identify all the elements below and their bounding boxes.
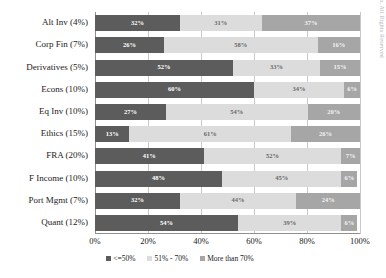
x-tick-label: 20%	[140, 236, 156, 246]
copyright-watermark: Copyright © 2013 Finco. All Rights Reser…	[379, 0, 385, 58]
bar-segment: 26%	[95, 37, 164, 53]
category-label: Econs (10%)	[41, 85, 88, 94]
bar-segment: 34%	[254, 82, 344, 98]
bar-segment: 15%	[320, 60, 360, 76]
legend-swatch-icon	[147, 256, 152, 261]
bar-segment-value-label: 20%	[327, 109, 340, 116]
bar-segment: 44%	[180, 193, 297, 209]
bar-segment-value-label: 13%	[106, 131, 119, 138]
category-axis-labels: Alt Inv (4%)Corp Fin (7%)Derivatives (5%…	[0, 12, 92, 234]
bar-segment-value-label: 52%	[157, 64, 170, 71]
bar-segment: 54%	[95, 215, 238, 231]
x-tick-label: 80%	[299, 236, 315, 246]
category-label: FRA (20%)	[46, 151, 88, 160]
legend-item[interactable]: More than 70%	[200, 254, 254, 263]
x-axis-tick-labels: 0%20%40%60%80%100%	[95, 236, 360, 250]
bar-segment-value-label: 6%	[345, 220, 355, 227]
bar-segment: 54%	[166, 104, 308, 120]
x-tick-label: 100%	[350, 236, 370, 246]
bar-segment: 6%	[341, 171, 357, 187]
plot-area: 32%31%37%26%58%16%52%33%15%60%34%6%27%54…	[95, 12, 360, 234]
bar-segment: 7%	[341, 148, 360, 164]
bar-row: 32%44%24%	[95, 193, 360, 209]
bar-segment: 32%	[95, 193, 180, 209]
bar-segment-value-label: 6%	[345, 175, 355, 182]
category-label: Eq Inv (10%)	[39, 107, 88, 116]
bar-segment: 37%	[262, 15, 360, 31]
bar-segment-value-label: 39%	[283, 220, 296, 227]
bar-segment-value-label: 27%	[124, 109, 137, 116]
bar-segment: 52%	[95, 60, 233, 76]
bar-segment-value-label: 32%	[131, 20, 144, 27]
bar-segment: 48%	[95, 171, 222, 187]
legend-item[interactable]: <=50%	[106, 254, 135, 263]
bar-row: 48%45%6%	[95, 171, 360, 187]
category-label: Derivatives (5%)	[26, 63, 88, 72]
bar-segment: 33%	[233, 60, 320, 76]
bar-segment: 26%	[291, 126, 360, 142]
bar-segment-value-label: 26%	[123, 42, 136, 49]
bar-segment-value-label: 52%	[266, 153, 279, 160]
bar-segment: 39%	[238, 215, 341, 231]
bar-segment: 52%	[204, 148, 342, 164]
bar-segment: 24%	[296, 193, 360, 209]
bar-segment-value-label: 54%	[230, 109, 243, 116]
bar-segment: 31%	[180, 15, 262, 31]
bar-segment-value-label: 33%	[270, 64, 283, 71]
bar-segment-value-label: 54%	[160, 220, 173, 227]
bar-segment-value-label: 7%	[346, 153, 356, 160]
stacked-bar-chart: Alt Inv (4%)Corp Fin (7%)Derivatives (5%…	[0, 0, 386, 278]
bar-segment: 16%	[318, 37, 360, 53]
legend-label: More than 70%	[207, 254, 254, 263]
bar-row: 26%58%16%	[95, 37, 360, 53]
bar-segment: 32%	[95, 15, 180, 31]
bar-row: 41%52%7%	[95, 148, 360, 164]
bar-segment: 13%	[95, 126, 129, 142]
bar-segment-value-label: 32%	[131, 197, 144, 204]
bar-row: 54%39%6%	[95, 215, 360, 231]
category-label: Ethics (15%)	[41, 129, 88, 138]
bar-segment-value-label: 37%	[304, 20, 317, 27]
bar-segment-value-label: 34%	[293, 86, 306, 93]
legend-label: <=50%	[113, 254, 135, 263]
category-label: Quant (12%)	[41, 218, 88, 227]
x-tick-label: 0%	[89, 236, 100, 246]
bar-rows: 32%31%37%26%58%16%52%33%15%60%34%6%27%54…	[95, 12, 360, 234]
bar-segment: 45%	[222, 171, 341, 187]
gridline	[360, 12, 361, 234]
bar-segment-value-label: 45%	[275, 175, 288, 182]
bar-row: 60%34%6%	[95, 82, 360, 98]
bar-row: 13%61%26%	[95, 126, 360, 142]
bar-segment-value-label: 31%	[214, 20, 227, 27]
bar-segment-value-label: 24%	[322, 197, 335, 204]
bar-segment: 61%	[129, 126, 291, 142]
legend-swatch-icon	[106, 256, 111, 261]
bar-row: 27%54%20%	[95, 104, 360, 120]
bar-segment-value-label: 61%	[204, 131, 217, 138]
bar-segment: 58%	[164, 37, 318, 53]
bar-segment: 6%	[341, 215, 357, 231]
x-tick-label: 40%	[193, 236, 209, 246]
legend-item[interactable]: 51% - 70%	[147, 254, 188, 263]
category-label: Alt Inv (4%)	[42, 18, 88, 27]
bar-segment-value-label: 15%	[334, 64, 347, 71]
bar-segment-value-label: 16%	[332, 42, 345, 49]
category-label: Port Mgmt (7%)	[29, 196, 89, 205]
category-label: F Income (10%)	[29, 174, 88, 183]
bar-segment: 60%	[95, 82, 254, 98]
bar-segment-value-label: 60%	[168, 86, 181, 93]
legend-label: 51% - 70%	[154, 254, 188, 263]
x-tick-label: 60%	[246, 236, 262, 246]
bar-segment-value-label: 48%	[152, 175, 165, 182]
bar-row: 52%33%15%	[95, 60, 360, 76]
legend-swatch-icon	[200, 256, 205, 261]
bar-segment: 6%	[344, 82, 360, 98]
bar-segment: 20%	[308, 104, 360, 120]
bar-row: 32%31%37%	[95, 15, 360, 31]
bar-segment: 41%	[95, 148, 204, 164]
bar-segment-value-label: 41%	[143, 153, 156, 160]
chart-legend: <=50%51% - 70%More than 70%	[0, 254, 360, 263]
bar-segment-value-label: 26%	[319, 131, 332, 138]
bar-segment-value-label: 6%	[347, 86, 357, 93]
bar-segment: 27%	[95, 104, 166, 120]
